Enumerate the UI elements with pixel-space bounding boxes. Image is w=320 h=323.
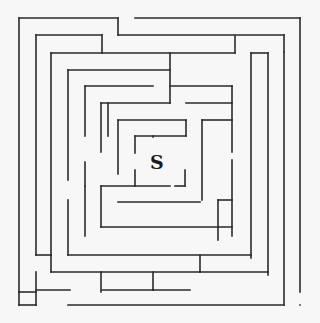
start-marker: S bbox=[150, 151, 164, 173]
